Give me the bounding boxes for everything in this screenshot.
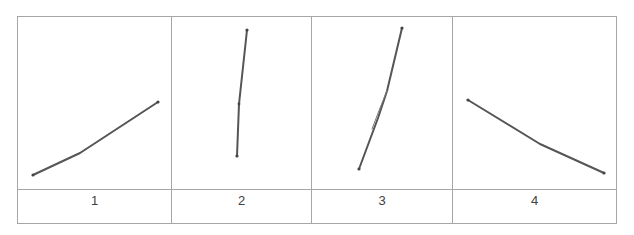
plot-2 [235,28,248,157]
plot-3 [357,26,403,170]
panel-label-3: 3 [312,190,452,225]
plot-1 [31,100,159,176]
panel-label-4: 4 [453,190,616,225]
panel-label-2: 2 [172,190,311,225]
plot-4 [466,98,605,174]
panel-label-1: 1 [18,190,171,225]
